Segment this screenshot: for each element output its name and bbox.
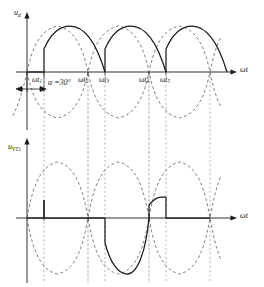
top-solid-ud-waveform — [27, 26, 227, 72]
natural-commutation-dotted-lines — [88, 74, 149, 283]
ud-pulse-1 — [44, 26, 105, 72]
tick-label-wt4-sub: 4 — [146, 78, 149, 84]
bottom-x-axis-arrow — [231, 215, 238, 220]
tick-label-wt5-sub: 5 — [167, 78, 170, 84]
top-y-axis-arrow — [24, 12, 29, 19]
tick-label-wt5: ωt5 — [160, 76, 170, 84]
tick-label-wt2-sub: 2 — [85, 78, 88, 84]
bottom-y-axis-label-sub: VT1 — [12, 146, 21, 152]
tick-label-wt1: ωt1 — [32, 76, 42, 84]
tick-label-wt2: ωt2 — [78, 76, 88, 84]
alpha-arrow-right — [40, 87, 46, 92]
tick-label-wt3: ωt3 — [99, 76, 109, 84]
tick-label-wt3-sub: 3 — [106, 78, 109, 84]
ud-pulse-2 — [105, 26, 166, 72]
alpha-arrow-left — [16, 87, 22, 92]
tick-label-wt1-sub: 1 — [39, 78, 42, 84]
bottom-panel-axes — [16, 138, 237, 283]
bottom-x-axis-label: ωt — [240, 212, 248, 220]
alpha-label: α =30° — [48, 79, 71, 87]
top-y-axis-label-sub: d — [18, 12, 21, 18]
top-x-axis-arrow — [231, 69, 238, 74]
bottom-solid-uvt1-waveform — [27, 197, 210, 274]
commutation-guide-lines — [44, 72, 210, 283]
ud-pulse-3 — [166, 26, 227, 72]
tick-label-wt4: ωt4 — [139, 76, 149, 84]
bottom-y-axis-arrow — [24, 138, 29, 145]
top-y-axis-label: ud — [14, 9, 21, 17]
bottom-y-axis-label: uVT1 — [8, 143, 21, 151]
top-x-axis-label: ωt — [240, 66, 248, 74]
waveform-figure — [0, 0, 264, 287]
